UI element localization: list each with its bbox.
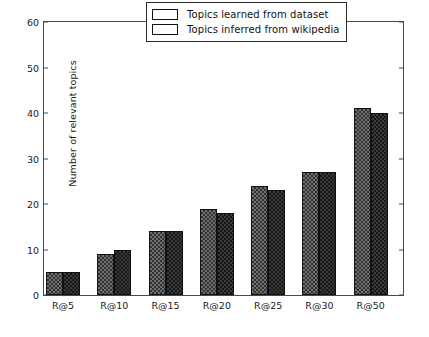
bar-R-at-5-series-0	[46, 272, 63, 295]
bar-R-at-50-series-0	[354, 108, 371, 295]
legend-label-series-1: Topics inferred from wikipedia	[187, 24, 340, 35]
legend-entry-series-0: Topics learned from dataset	[152, 7, 340, 22]
y-tick-mark-right	[399, 249, 403, 250]
bar-R-at-15-series-1	[166, 231, 183, 295]
bar-R-at-30-series-0	[302, 172, 319, 295]
y-tick-mark-right	[399, 22, 403, 23]
x-tick-label: R@20	[203, 300, 231, 311]
legend-swatch-icon-series-0	[152, 9, 178, 20]
y-tick-label: 30	[27, 153, 39, 164]
bar-R-at-25-series-1	[268, 190, 285, 295]
y-tick-mark	[44, 249, 48, 250]
bar-R-at-50-series-1	[371, 113, 388, 295]
bar-chart-figure: Number of relevant topics 0102030405060 …	[0, 0, 429, 337]
y-tick-mark-right	[399, 158, 403, 159]
y-tick-mark	[44, 113, 48, 114]
x-tick-label: R@5	[52, 300, 74, 311]
y-tick-mark-right	[399, 295, 403, 296]
legend-swatch-icon-series-1	[152, 24, 178, 35]
bar-R-at-30-series-1	[319, 172, 336, 295]
x-tick-label: R@25	[254, 300, 282, 311]
y-tick-label: 40	[27, 108, 39, 119]
x-tick-label: R@10	[100, 300, 128, 311]
y-tick-label: 0	[33, 290, 39, 301]
y-tick-mark-right	[399, 67, 403, 68]
y-tick-mark-right	[399, 204, 403, 205]
chart-legend: Topics learned from dataset Topics infer…	[146, 2, 347, 42]
bar-R-at-15-series-0	[149, 231, 166, 295]
plot-area: Number of relevant topics 0102030405060 …	[43, 21, 404, 296]
bar-R-at-10-series-1	[114, 250, 131, 296]
legend-label-series-0: Topics learned from dataset	[187, 9, 329, 20]
y-tick-label: 10	[27, 244, 39, 255]
x-tick-label: R@15	[151, 300, 179, 311]
y-tick-label: 60	[27, 17, 39, 28]
y-tick-mark	[44, 158, 48, 159]
x-tick-label: R@50	[357, 300, 385, 311]
y-tick-mark	[44, 22, 48, 23]
y-tick-label: 20	[27, 199, 39, 210]
y-axis-label: Number of relevant topics	[67, 34, 78, 214]
bar-R-at-5-series-1	[63, 272, 80, 295]
bar-R-at-10-series-0	[97, 254, 114, 295]
legend-entry-series-1: Topics inferred from wikipedia	[152, 22, 340, 37]
y-tick-mark-right	[399, 113, 403, 114]
y-tick-label: 50	[27, 62, 39, 73]
y-tick-mark	[44, 204, 48, 205]
bar-R-at-25-series-0	[251, 186, 268, 295]
x-tick-label: R@30	[305, 300, 333, 311]
bar-R-at-20-series-0	[200, 209, 217, 295]
y-tick-mark	[44, 67, 48, 68]
bar-R-at-20-series-1	[217, 213, 234, 295]
